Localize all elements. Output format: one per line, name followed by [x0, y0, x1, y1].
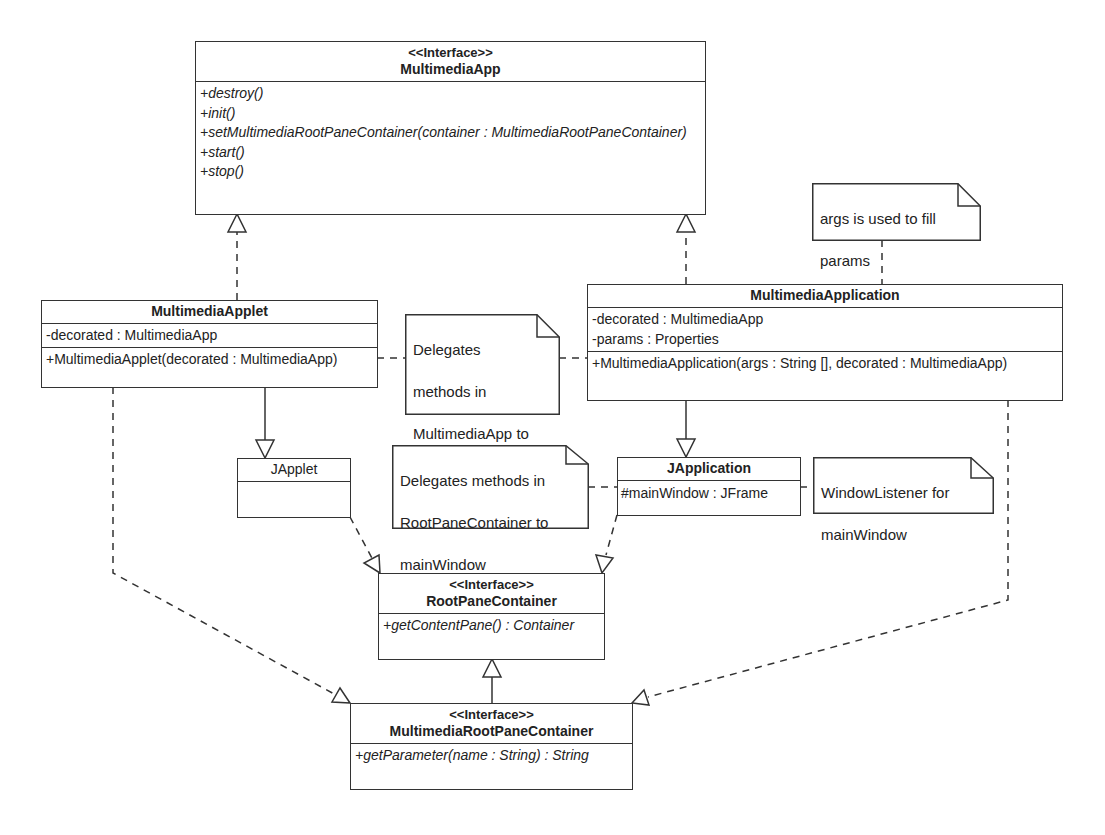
operation: +MultimediaApplication(args : String [],… — [592, 353, 1058, 373]
class-header: MultimediaApplet — [42, 301, 377, 324]
operation: +stop() — [200, 162, 701, 182]
class-multimedia-root-pane-container[interactable]: <<Interface>> MultimediaRootPaneContaine… — [350, 703, 633, 790]
class-name: RootPaneContainer — [383, 593, 600, 610]
operations-section: +getParameter(name : String) : String — [351, 744, 632, 766]
class-root-pane-container[interactable]: <<Interface>> RootPaneContainer +getCont… — [378, 573, 605, 660]
note-line: WindowListener for — [821, 482, 986, 503]
note-delegates-root-pane-container[interactable]: Delegates methods in RootPaneContainer t… — [392, 445, 589, 529]
edge-applet-realizes-mrpc — [113, 387, 350, 703]
note-line: RootPaneContainer to — [400, 512, 581, 533]
edge-mrpc-extends-rpc — [483, 659, 501, 703]
class-name: MultimediaApplet — [46, 303, 373, 320]
note-delegates-multimedia-app[interactable]: Delegates methods in MultimediaApp to de… — [405, 314, 560, 415]
operation: +init() — [200, 104, 701, 124]
attribute: -params : Properties — [592, 329, 1058, 349]
class-header: <<Interface>> RootPaneContainer — [379, 574, 604, 614]
note-line: Delegates methods in — [400, 470, 581, 491]
attribute: -decorated : MultimediaApp — [592, 309, 1058, 329]
note-line: methods in — [413, 381, 552, 402]
stereotype-label: <<Interface>> — [355, 706, 628, 723]
class-name: JApplet — [242, 461, 346, 478]
operation: +MultimediaApplet(decorated : Multimedia… — [46, 349, 373, 369]
operation: +getContentPane() : Container — [383, 615, 600, 635]
edge-application-extends-japplication — [677, 400, 695, 457]
class-name: MultimediaApplication — [592, 287, 1058, 304]
class-header: JApplet — [238, 459, 350, 482]
edge-applet-extends-japplet — [256, 387, 274, 458]
class-header: <<Interface>> MultimediaApp — [196, 42, 705, 82]
stereotype-label: <<Interface>> — [200, 44, 701, 61]
attribute: #mainWindow : JFrame — [621, 483, 797, 503]
class-header: JApplication — [618, 458, 800, 481]
operation: +start() — [200, 143, 701, 163]
attribute: -decorated : MultimediaApp — [46, 325, 373, 345]
note-line: params — [820, 250, 973, 271]
attributes-section: -decorated : MultimediaApp -params : Pro… — [588, 308, 1062, 351]
uml-class-diagram: <<Interface>> MultimediaApp +destroy() +… — [0, 0, 1105, 835]
class-name: MultimediaApp — [200, 61, 701, 78]
class-header: MultimediaApplication — [588, 285, 1062, 308]
edge-application-realizes-app — [677, 214, 695, 284]
attributes-section: -decorated : MultimediaApp — [42, 324, 377, 347]
note-line: Delegates — [413, 339, 552, 360]
stereotype-label: <<Interface>> — [383, 576, 600, 593]
class-header: <<Interface>> MultimediaRootPaneContaine… — [351, 704, 632, 744]
operations-section: +getContentPane() : Container — [379, 614, 604, 636]
edge-japplet-realizes-rpc — [350, 517, 380, 573]
class-multimedia-app[interactable]: <<Interface>> MultimediaApp +destroy() +… — [195, 41, 706, 215]
operations-section: +destroy() +init() +setMultimediaRootPan… — [196, 82, 705, 185]
class-multimedia-application[interactable]: MultimediaApplication -decorated : Multi… — [587, 284, 1063, 401]
note-line: mainWindow — [821, 524, 986, 545]
edge-applet-realizes-app — [228, 214, 246, 300]
class-japplication[interactable]: JApplication #mainWindow : JFrame — [617, 457, 801, 516]
class-multimedia-applet[interactable]: MultimediaApplet -decorated : Multimedia… — [41, 300, 378, 388]
note-window-listener[interactable]: WindowListener for mainWindow — [813, 457, 994, 514]
operations-section: +MultimediaApplication(args : String [],… — [588, 351, 1062, 375]
operation: +setMultimediaRootPaneContainer(containe… — [200, 123, 701, 143]
operation: +getParameter(name : String) : String — [355, 745, 628, 765]
attributes-section: #mainWindow : JFrame — [618, 481, 800, 505]
edge-japplication-realizes-rpc — [596, 515, 617, 573]
note-line: MultimediaApp to — [413, 423, 552, 444]
class-name: JApplication — [622, 460, 796, 477]
note-line: mainWindow — [400, 554, 581, 575]
class-name: MultimediaRootPaneContainer — [355, 723, 628, 740]
note-args-fill-params[interactable]: args is used to fill params — [812, 183, 981, 241]
operation: +destroy() — [200, 84, 701, 104]
operations-section: +MultimediaApplet(decorated : Multimedia… — [42, 347, 377, 371]
note-line: args is used to fill — [820, 208, 973, 229]
class-japplet[interactable]: JApplet — [237, 458, 351, 518]
